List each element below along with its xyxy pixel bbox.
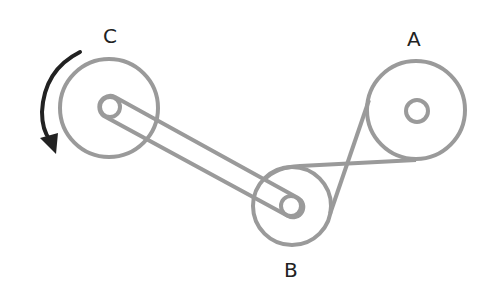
pulley-a [367,61,465,159]
pulley-a-hub [406,100,428,122]
pulley-c [60,59,158,157]
label-c: C [103,24,117,48]
belt-drive-diagram: C A B [0,0,487,297]
belt-c-b [99,96,303,217]
belt-b-a-lower [330,100,369,214]
label-b: B [284,258,298,282]
belt-b-a-upper [264,160,416,180]
label-a: A [407,27,421,51]
